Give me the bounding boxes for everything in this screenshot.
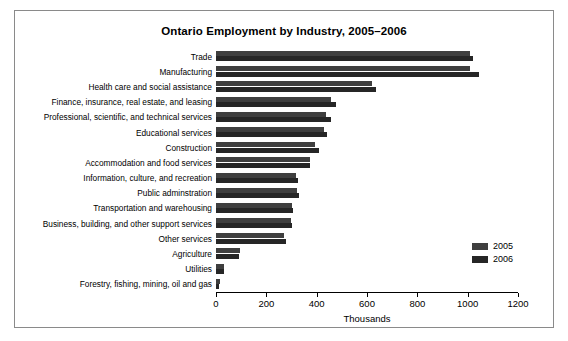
category-label: Public adminstration <box>137 189 212 197</box>
bar-2005 <box>216 248 240 253</box>
category-label: Accommodation and food services <box>85 159 212 167</box>
bar-2005 <box>216 66 470 71</box>
bar-2005 <box>216 233 284 238</box>
bar-2005 <box>216 218 291 223</box>
chart-figure: Ontario Employment by Industry, 2005–200… <box>14 10 554 328</box>
x-tick-mark <box>417 293 418 297</box>
category-label: Professional, scientific, and technical … <box>44 113 212 121</box>
bar-row: Professional, scientific, and technical … <box>216 110 518 125</box>
bar-2005 <box>216 142 315 147</box>
x-tick-mark <box>518 293 519 297</box>
category-label: Manufacturing <box>159 68 212 76</box>
bar-2006 <box>216 223 292 228</box>
bar-row: Health care and social assistance <box>216 79 518 94</box>
legend-label-2006: 2006 <box>493 254 513 264</box>
category-label: Construction <box>165 144 212 152</box>
category-label: Other services <box>159 235 212 243</box>
x-tick-label: 800 <box>397 298 437 309</box>
bar-row: Information, culture, and recreation <box>216 171 518 186</box>
bar-2006 <box>216 178 298 183</box>
category-label: Educational services <box>136 129 212 137</box>
bar-2005 <box>216 203 292 208</box>
category-label: Forestry, fishing, mining, oil and gas <box>80 280 212 288</box>
x-axis-label: Thousands <box>216 313 518 324</box>
x-tick-label: 1200 <box>498 298 538 309</box>
bar-2005 <box>216 51 470 56</box>
category-label: Agriculture <box>172 250 212 258</box>
bar-2006 <box>216 163 310 168</box>
bar-2006 <box>216 269 224 274</box>
bar-2006 <box>216 102 336 107</box>
bar-2006 <box>216 208 293 213</box>
bar-2005 <box>216 188 297 193</box>
category-label: Transportation and warehousing <box>93 204 212 212</box>
bar-2006 <box>216 87 376 92</box>
category-label: Information, culture, and recreation <box>83 174 212 182</box>
legend-swatch-2005-icon <box>472 243 488 250</box>
bar-2005 <box>216 279 220 284</box>
bar-2006 <box>216 284 219 289</box>
bar-row: Public adminstration <box>216 186 518 201</box>
bar-row: Business, building, and other support se… <box>216 216 518 231</box>
bar-2005 <box>216 127 324 132</box>
legend-label-2005: 2005 <box>493 241 513 251</box>
bar-row: Forestry, fishing, mining, oil and gas <box>216 277 518 292</box>
bar-2006 <box>216 72 479 77</box>
bar-2005 <box>216 157 310 162</box>
bar-2006 <box>216 239 286 244</box>
bar-2006 <box>216 193 299 198</box>
bar-row: Finance, insurance, real estate, and lea… <box>216 95 518 110</box>
bar-2006 <box>216 117 331 122</box>
bar-2005 <box>216 173 296 178</box>
bar-2006 <box>216 148 319 153</box>
x-tick-mark <box>367 293 368 297</box>
x-tick-mark <box>468 293 469 297</box>
legend-item: 2006 <box>472 254 513 264</box>
category-label: Finance, insurance, real estate, and lea… <box>51 98 212 106</box>
bar-2005 <box>216 112 326 117</box>
category-label: Trade <box>191 53 212 61</box>
chart-title: Ontario Employment by Industry, 2005–200… <box>15 25 553 37</box>
bar-2006 <box>216 56 473 61</box>
x-tick-label: 1000 <box>448 298 488 309</box>
legend-swatch-2006-icon <box>472 256 488 263</box>
bar-2005 <box>216 97 331 102</box>
bar-2005 <box>216 264 224 269</box>
legend-item: 2005 <box>472 241 513 251</box>
chart-legend: 2005 2006 <box>472 241 513 267</box>
bar-row: Transportation and warehousing <box>216 201 518 216</box>
x-tick-label: 400 <box>297 298 337 309</box>
category-label: Utilities <box>185 265 212 273</box>
bar-row: Educational services <box>216 125 518 140</box>
x-tick-label: 0 <box>196 298 236 309</box>
x-tick-label: 200 <box>246 298 286 309</box>
x-tick-mark <box>266 293 267 297</box>
x-tick-mark <box>317 293 318 297</box>
x-tick-label: 600 <box>347 298 387 309</box>
bar-2006 <box>216 132 327 137</box>
bar-row: Trade <box>216 49 518 64</box>
bar-row: Accommodation and food services <box>216 155 518 170</box>
category-label: Business, building, and other support se… <box>43 220 212 228</box>
bar-row: Construction <box>216 140 518 155</box>
bar-2005 <box>216 81 372 86</box>
category-label: Health care and social assistance <box>88 83 212 91</box>
bar-row: Manufacturing <box>216 64 518 79</box>
bar-2006 <box>216 254 239 259</box>
x-tick-mark <box>216 293 217 297</box>
